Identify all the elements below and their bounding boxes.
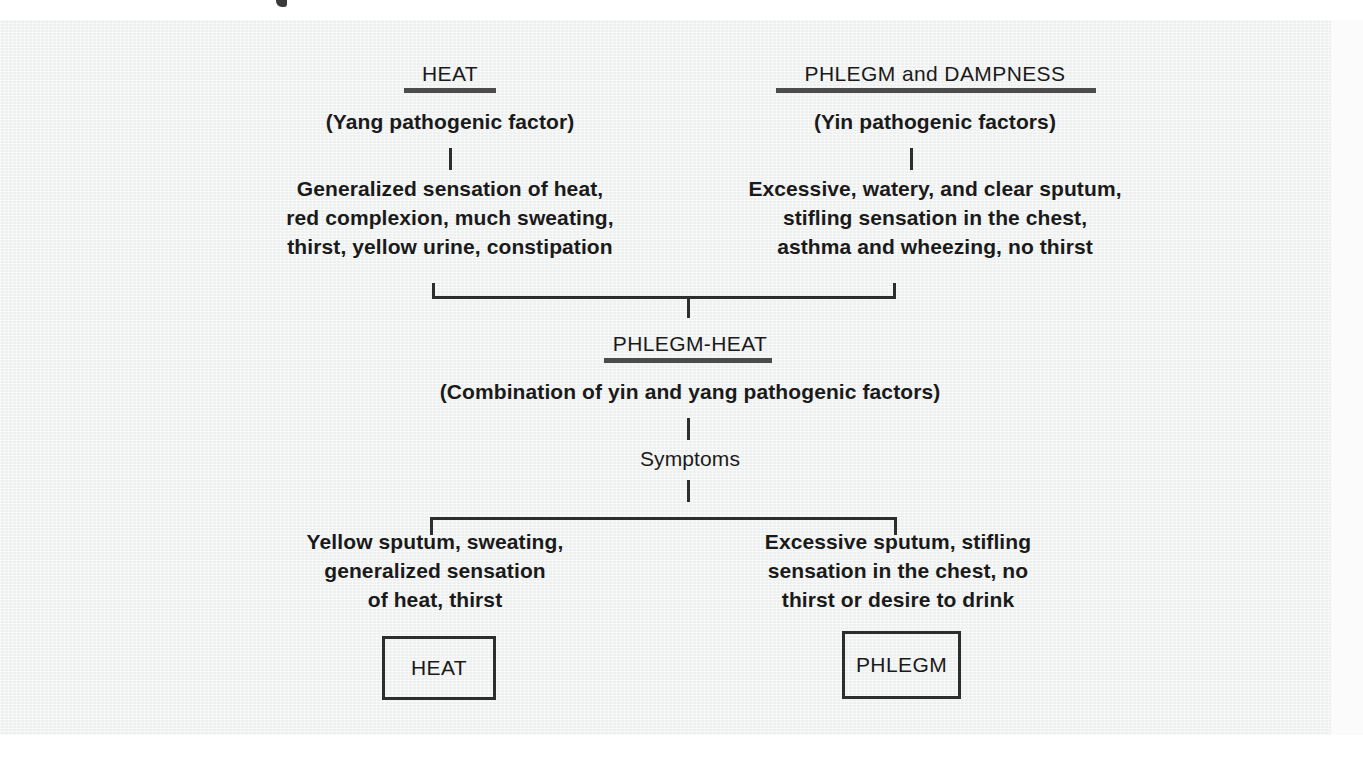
bracket-lower-horizontal	[430, 517, 897, 520]
right-branch-stem	[910, 148, 913, 170]
combined-title-underline	[604, 358, 772, 363]
left-branch-title-underline	[404, 88, 496, 93]
left-outcome-box-label: HEAT	[411, 656, 467, 680]
panel-right-margin	[1331, 20, 1363, 735]
right-branch-details: Excessive, watery, and clear sputum, sti…	[705, 175, 1165, 262]
bracket-upper-center-stem	[687, 296, 690, 318]
symptoms-to-bracket-stem	[687, 480, 690, 502]
combined-to-symptoms-stem	[687, 418, 690, 440]
combined-subtitle: (Combination of yin and yang pathogenic …	[370, 378, 1010, 407]
left-branch-subtitle: (Yang pathogenic factor)	[285, 108, 615, 137]
symptoms-label: Symptoms	[590, 445, 790, 474]
right-branch-subtitle: (Yin pathogenic factors)	[725, 108, 1145, 137]
right-outcome-details: Excessive sputum, stifling sensation in …	[718, 528, 1078, 615]
bracket-upper-horizontal	[432, 296, 896, 299]
bracket-upper-right-arm	[893, 283, 896, 299]
left-branch-title: HEAT	[300, 60, 600, 89]
right-outcome-box-label: PHLEGM	[856, 653, 947, 677]
left-branch-stem	[449, 148, 452, 170]
left-outcome-box: HEAT	[382, 636, 496, 700]
figure-panel: HEAT (Yang pathogenic factor) Generalize…	[0, 20, 1331, 735]
cropped-caption-remnant	[276, 0, 287, 7]
right-outcome-box: PHLEGM	[842, 631, 961, 699]
right-branch-title-underline	[776, 88, 1096, 93]
left-branch-details: Generalized sensation of heat, red compl…	[270, 175, 630, 262]
left-outcome-details: Yellow sputum, sweating, generalized sen…	[255, 528, 615, 615]
right-branch-title: PHLEGM and DAMPNESS	[715, 60, 1155, 89]
combined-title: PHLEGM-HEAT	[540, 330, 840, 359]
